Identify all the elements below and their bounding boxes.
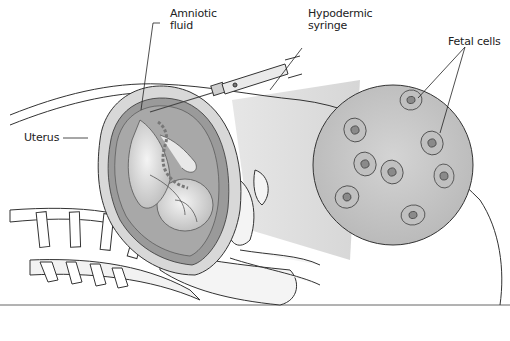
label-amniotic-line2: fluid <box>170 20 217 32</box>
label-fetal-cells: Fetal cells <box>448 36 501 48</box>
label-uterus: Uterus <box>24 132 59 144</box>
label-hypodermic-syringe: Hypodermic syringe <box>308 8 372 32</box>
magnified-fetal-cells <box>313 85 473 245</box>
label-amniotic-fluid: Amniotic fluid <box>170 8 217 32</box>
amniocentesis-diagram <box>0 0 510 341</box>
label-syringe-line2: syringe <box>308 20 372 32</box>
